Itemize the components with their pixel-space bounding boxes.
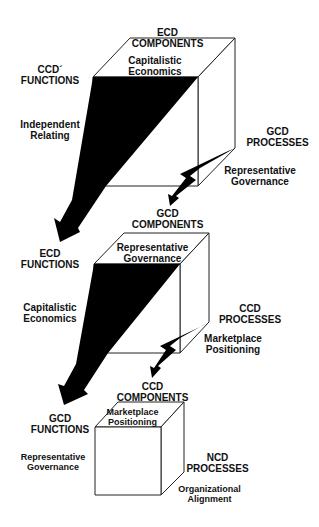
cube-3-functions-value: Representative Governance — [18, 452, 88, 472]
cube-3-functions-label: GCD FUNCTIONS — [30, 413, 90, 435]
cube-3-processes-value: Organizational Alignment — [172, 484, 247, 504]
cube-2-components-label: GCD COMPONENTS — [130, 208, 205, 230]
cube-1-components-label: ECD COMPONENTS — [120, 27, 215, 49]
cube-1-functions-value: Independent Relating — [10, 119, 90, 141]
cube-2-functions-label: ECD FUNCTIONS — [15, 248, 85, 270]
cube-2-top-face-label: Representative Governance — [110, 242, 195, 264]
cube-1-processes-value: Representative Governance — [220, 165, 300, 187]
cube-3-top-face-label: Marketplace Positioning — [100, 407, 165, 427]
cube-2-processes-label: CCD PROCESSES — [215, 303, 285, 325]
cube-2-processes-value: Marketplace Positioning — [198, 333, 268, 355]
cube-3-front-face — [95, 427, 161, 495]
cube-3-processes-label: NCD PROCESSES — [185, 452, 250, 474]
cube-1-functions-label: CCD´ FUNCTIONS — [10, 64, 90, 86]
cube-1-top-face-label: Capitalistic Economics — [110, 55, 200, 77]
cube-2-functions-value: Capitalistic Economics — [15, 302, 85, 324]
cube-1-processes-label: GCD PROCESSES — [240, 126, 315, 148]
cube-3-components-label: CCD COMPONENTS — [115, 381, 190, 403]
